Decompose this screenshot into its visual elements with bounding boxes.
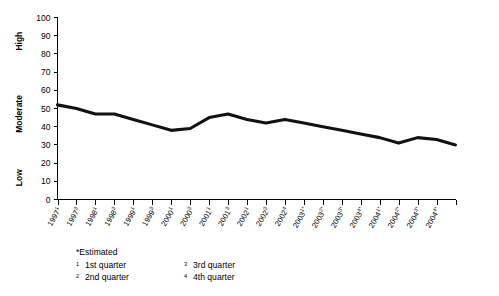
- y-tick-label: 70: [41, 67, 51, 77]
- y-tick-label: 0: [46, 195, 51, 205]
- x-tick-labels: 1997119973199811998319991199932000120003…: [45, 205, 443, 229]
- footnote-marker: 2: [76, 272, 85, 281]
- x-tick-label: 20001: [158, 205, 177, 227]
- x-tick-label: 20032*: [309, 206, 329, 230]
- y-tick-label: 50: [41, 104, 51, 114]
- x-tick-label: 20013: [215, 205, 234, 227]
- footnote-item: 3 3rd quarter: [184, 260, 496, 271]
- footnote-marker: 3: [184, 260, 193, 269]
- x-tick-label: 20011: [196, 205, 215, 227]
- y-tick-label: 40: [41, 122, 51, 132]
- footnote-text: 2nd quarter: [85, 272, 129, 283]
- x-axis: [58, 200, 457, 205]
- y-tick-label: 100: [36, 13, 50, 23]
- y-zone-label: Low: [14, 169, 24, 186]
- y-zone-label: High: [14, 32, 24, 51]
- x-tick-label: 20031*: [290, 206, 310, 230]
- footnote-estimated: *Estimated: [76, 247, 496, 259]
- x-tick-label: 20033*: [328, 206, 348, 230]
- line-chart-svg: 0102030405060708090100 LowModerateHigh 1…: [0, 0, 499, 250]
- footnote-marker: 4: [184, 272, 193, 281]
- footnote-item: 1 1st quarter: [76, 260, 184, 271]
- x-tick-label: 20034*: [347, 206, 367, 230]
- y-tick-label: 20: [41, 158, 51, 168]
- x-tick-label: 20021: [234, 205, 253, 227]
- footnote-item: 2 2nd quarter: [76, 272, 184, 283]
- chart-footnotes: *Estimated 1 1st quarter 3 3rd quarter 2…: [76, 247, 496, 283]
- footnote-marker: 1: [76, 260, 85, 269]
- x-tick-label: 20024: [272, 205, 291, 227]
- y-tick-label: 60: [41, 85, 51, 95]
- chart-figure: 0102030405060708090100 LowModerateHigh 1…: [0, 0, 499, 296]
- x-tick-label: 19981: [83, 205, 102, 227]
- x-tick-label: 20003: [177, 205, 196, 227]
- chart-plot-area: 0102030405060708090100 LowModerateHigh 1…: [0, 0, 499, 250]
- x-tick-label: 19993: [139, 205, 158, 227]
- footnote-item: 4 4th quarter: [184, 272, 496, 283]
- x-tick-label: 19973: [64, 205, 83, 227]
- data-series-line: [58, 105, 456, 145]
- y-tick-label: 80: [41, 49, 51, 59]
- y-tick-label: 30: [41, 140, 51, 150]
- x-tick-label: 19983: [102, 205, 121, 227]
- y-tick-label: 90: [41, 31, 51, 41]
- y-zone-labels: LowModerateHigh: [14, 32, 24, 186]
- x-tick-label: 20042*: [385, 206, 405, 230]
- x-tick-label: 19971: [45, 205, 64, 227]
- x-tick-label: 20041*: [366, 206, 386, 230]
- footnote-text: 3rd quarter: [193, 260, 235, 271]
- y-tick-label: 10: [41, 176, 51, 186]
- x-tick-label: 20023: [253, 205, 272, 227]
- footnote-text: 1st quarter: [85, 260, 126, 271]
- footnote-quarter-list: 1 1st quarter 3 3rd quarter 2 2nd quarte…: [76, 260, 496, 283]
- footnote-text: 4th quarter: [193, 272, 235, 283]
- data-series-group: [58, 105, 456, 145]
- y-zone-label: Moderate: [14, 95, 24, 133]
- x-tick-label: 20043*: [404, 206, 424, 230]
- y-axis: 0102030405060708090100: [36, 13, 57, 205]
- x-tick-label: 19991: [120, 205, 139, 227]
- x-tick-label: 20044*: [423, 206, 443, 230]
